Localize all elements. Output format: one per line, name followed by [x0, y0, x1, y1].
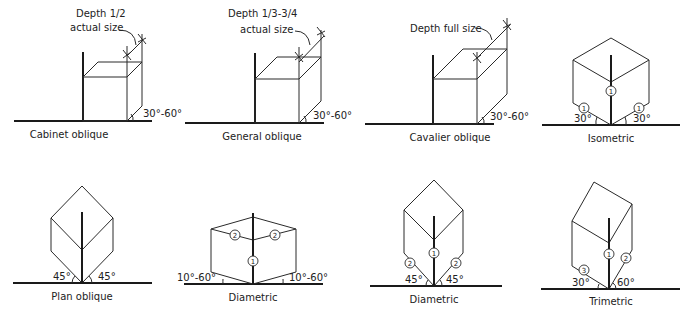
- scale-marker-right: 2: [454, 260, 458, 268]
- angle-label: 30°-60°: [490, 111, 529, 122]
- scale-marker-left: 2: [408, 260, 412, 268]
- cube-top-face: [83, 62, 142, 77]
- scale-marker-vertical: 1: [609, 88, 613, 96]
- scale-marker-right: 1: [637, 105, 641, 113]
- scale-marker-left: 3: [582, 267, 586, 275]
- angle-label-left: 10°-60°: [177, 272, 216, 283]
- scale-marker-right: 2: [624, 255, 628, 263]
- figure-trimetric: 1 3 2 30° 60° Trimetric: [541, 182, 680, 307]
- scale-marker-vertical: 1: [432, 250, 436, 258]
- caption: Diametric: [229, 292, 278, 303]
- cube-front-face: [83, 77, 127, 121]
- angle-arc: [482, 117, 484, 124]
- angle-label-right: 45°: [446, 274, 464, 285]
- scale-marker-right: 2: [273, 232, 277, 240]
- angle-label: 30°-60°: [313, 110, 352, 121]
- caption: Trimetric: [588, 296, 633, 307]
- depth-note: Depth 1/2: [76, 8, 126, 19]
- cube-front-face: [255, 79, 299, 123]
- figure-cabinet-oblique: Depth 1/2 actual size 30°-60° Cabinet ob…: [14, 8, 182, 140]
- figure-diametric-2: 1 2 2 45° 45° Diametric: [370, 180, 502, 305]
- figure-isometric: 1 1 1 30° 30° Isometric: [542, 38, 680, 144]
- cube-top-face: [433, 49, 507, 79]
- figure-cavalier-oblique: Depth full size 30°-60° Cavalier oblique: [365, 18, 529, 143]
- depth-note-2: actual size: [240, 24, 293, 35]
- depth-note-2: actual size: [70, 22, 123, 33]
- projection-types-diagram: Depth 1/2 actual size 30°-60° Cabinet ob…: [0, 0, 688, 315]
- scale-marker-vertical: 1: [607, 251, 611, 259]
- figure-diametric-1: 2 2 1 10°-60° 10°-60° Diametric: [177, 213, 328, 303]
- angle-label-left: 30°: [574, 113, 592, 124]
- scale-marker-left: 1: [582, 105, 586, 113]
- angle-label-left: 45°: [405, 274, 423, 285]
- cube-side-face: [127, 62, 142, 121]
- caption: Cavalier oblique: [409, 132, 490, 143]
- caption: Diametric: [410, 294, 459, 305]
- depth-note: Depth 1/3-3/4: [228, 8, 297, 19]
- angle-label-right: 10°-60°: [289, 272, 328, 283]
- angle-label-right: 60°: [617, 277, 635, 288]
- angle-arc: [304, 116, 306, 123]
- cube-front-face: [433, 79, 477, 124]
- angle-label-right: 30°: [633, 113, 651, 124]
- depth-note: Depth full size: [410, 23, 482, 34]
- figure-general-oblique: Depth 1/3-3/4 actual size 30°-60° Genera…: [185, 8, 352, 142]
- caption: Cabinet oblique: [30, 129, 109, 140]
- scale-marker-left: 2: [233, 232, 237, 240]
- angle-label-left: 45°: [53, 271, 71, 282]
- caption: Isometric: [588, 133, 634, 144]
- caption: General oblique: [222, 131, 301, 142]
- angle-label-right: 45°: [98, 271, 116, 282]
- scale-marker-vertical: 1: [251, 258, 255, 266]
- angle-label: 30°-60°: [143, 108, 182, 119]
- cube-top-face: [572, 182, 632, 243]
- caption: Plan oblique: [51, 291, 112, 302]
- cube-top-face: [255, 57, 321, 79]
- leader-curve: [295, 31, 310, 45]
- figure-plan-oblique: 45° 45° Plan oblique: [13, 186, 152, 302]
- angle-label-left: 30°: [572, 277, 590, 288]
